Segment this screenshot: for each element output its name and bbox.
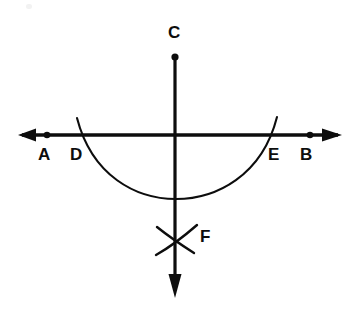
label-c: C [168, 24, 180, 41]
label-a: A [38, 146, 50, 163]
arrowhead-right-icon [322, 129, 342, 142]
label-b: B [300, 146, 312, 163]
vertical-line-cf [169, 57, 182, 298]
main-arc-de [77, 117, 277, 199]
label-e: E [268, 146, 279, 163]
point-b-dot [307, 132, 314, 139]
label-d: D [70, 146, 82, 163]
arrowhead-left-icon [18, 129, 36, 142]
label-f: F [200, 228, 210, 245]
point-c-dot [171, 53, 178, 60]
diagram-canvas: C A D E B F [0, 0, 361, 311]
point-a-dot [44, 132, 51, 139]
arrowhead-down-icon [169, 274, 182, 298]
horizontal-line-ab [18, 129, 342, 142]
